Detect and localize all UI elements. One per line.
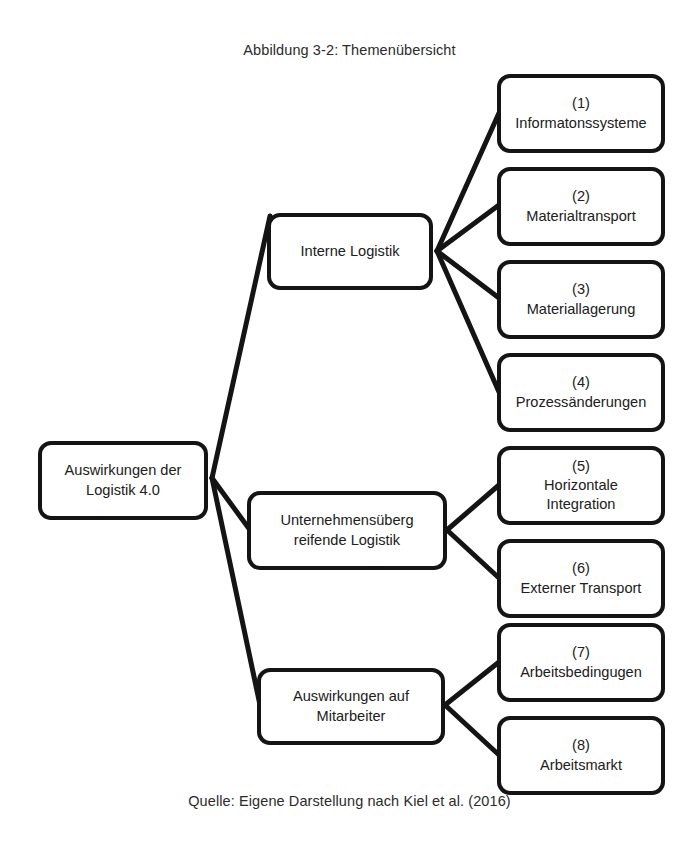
- node-leaf-6-label: (6) Externer Transport: [516, 559, 647, 598]
- node-branch-3-label: Auswirkungen auf Mitarbeiter: [288, 687, 414, 726]
- node-leaf-materiallagerung[interactable]: (3) Materiallagerung: [497, 260, 665, 339]
- node-leaf-horizontale-integration[interactable]: (5) Horizontale Integration: [497, 446, 665, 525]
- node-branch-unternehmensuebergreifende-logistik[interactable]: Unternehmensüberg reifende Logistik: [247, 491, 447, 570]
- edge-branch-2-to-leaf-5: [447, 485, 499, 530]
- node-leaf-externer-transport[interactable]: (6) Externer Transport: [497, 539, 665, 618]
- figure-canvas: Abbildung 3-2: Themenübersicht Auswirkun…: [0, 0, 699, 845]
- node-branch-auswirkungen-auf-mitarbeiter[interactable]: Auswirkungen auf Mitarbeiter: [257, 668, 445, 745]
- edge-root-to-branch-1: [212, 216, 270, 478]
- node-leaf-arbeitsbedingugen[interactable]: (7) Arbeitsbedingugen: [497, 623, 665, 702]
- node-leaf-8-label: (8) Arbeitsmarkt: [535, 736, 627, 775]
- node-leaf-1-label: (1) Informatonssysteme: [510, 94, 651, 133]
- node-leaf-prozessaenderungen[interactable]: (4) Prozessänderungen: [497, 353, 665, 432]
- node-branch-2-label: Unternehmensüberg reifende Logistik: [275, 511, 418, 550]
- node-leaf-3-label: (3) Materiallagerung: [522, 280, 641, 319]
- edge-branch-2-to-leaf-6: [447, 530, 499, 578]
- edge-branch-3-to-leaf-8: [445, 705, 499, 755]
- node-branch-interne-logistik[interactable]: Interne Logistik: [267, 213, 433, 290]
- node-root-label: Auswirkungen der Logistik 4.0: [60, 461, 187, 500]
- node-leaf-arbeitsmarkt[interactable]: (8) Arbeitsmarkt: [497, 716, 665, 795]
- node-leaf-materialtransport[interactable]: (2) Materialtransport: [497, 167, 665, 246]
- node-root[interactable]: Auswirkungen der Logistik 4.0: [38, 441, 208, 520]
- edge-branch-3-to-leaf-7: [445, 662, 499, 705]
- node-leaf-informatonssysteme[interactable]: (1) Informatonssysteme: [497, 74, 665, 153]
- figure-source-note: Quelle: Eigene Darstellung nach Kiel et …: [0, 793, 699, 809]
- node-leaf-2-label: (2) Materialtransport: [521, 187, 641, 226]
- node-leaf-5-label: (5) Horizontale Integration: [539, 457, 623, 515]
- node-leaf-7-label: (7) Arbeitsbedingugen: [515, 643, 647, 682]
- node-leaf-4-label: (4) Prozessänderungen: [511, 373, 652, 412]
- node-branch-1-label: Interne Logistik: [296, 242, 405, 261]
